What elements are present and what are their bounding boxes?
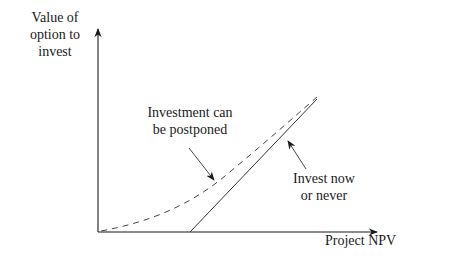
- postponable-curve-label: Investment can be postponed: [132, 104, 248, 138]
- y-axis-label: Value of option to invest: [20, 9, 90, 60]
- postponable-label-line: be postponed: [132, 121, 248, 138]
- postponable-label-line: Investment can: [132, 104, 248, 121]
- now-or-never-label-line: Invest now: [284, 170, 364, 187]
- y-axis-label-line: option to: [20, 26, 90, 43]
- y-axis-label-line: Value of: [20, 9, 90, 26]
- now-or-never-pointer-arrow: [288, 141, 306, 169]
- x-axis-label: Project NPV: [325, 232, 396, 249]
- now-or-never-label-line: or never: [284, 187, 364, 204]
- postpone-pointer-arrow: [189, 148, 214, 180]
- y-axis-label-line: invest: [20, 43, 90, 60]
- now-or-never-label: Invest now or never: [284, 170, 364, 204]
